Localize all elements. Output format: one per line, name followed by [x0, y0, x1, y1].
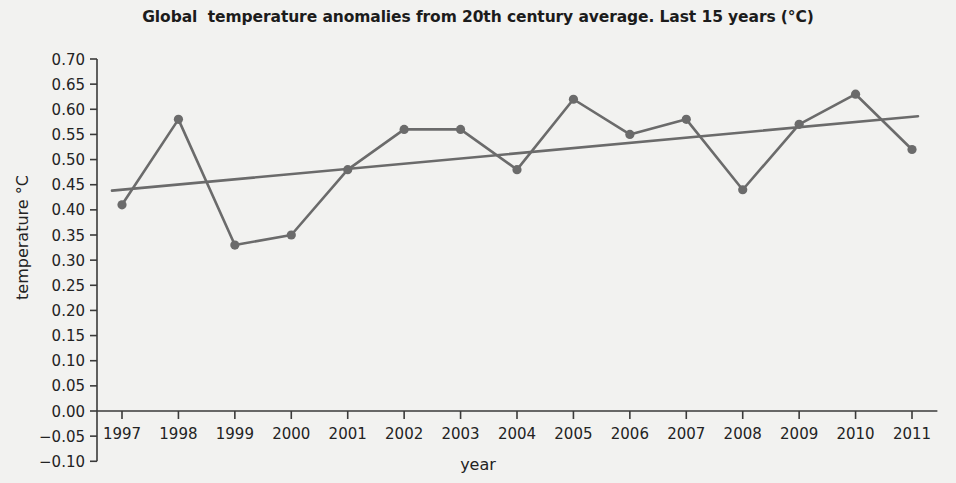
data-point-marker [174, 115, 183, 124]
data-point-marker [230, 240, 239, 249]
x-axis-tick-label: 2007 [667, 425, 705, 443]
data-point-marker [682, 115, 691, 124]
data-point-marker [456, 125, 465, 134]
data-point-marker [569, 95, 578, 104]
y-axis-label: temperature °C [13, 158, 32, 318]
data-point-marker [738, 185, 747, 194]
y-axis-tick-label: 0.40 [52, 201, 85, 219]
y-axis-tick-label: 0.30 [52, 252, 85, 270]
trendline [112, 116, 918, 190]
data-point-marker [287, 230, 296, 239]
y-axis-tick-label: 0.65 [52, 76, 85, 94]
data-point-marker [851, 90, 860, 99]
y-axis-tick-label: 0.70 [52, 51, 85, 69]
x-axis-tick-label: 2000 [272, 425, 310, 443]
x-axis-tick-label: 2011 [893, 425, 931, 443]
x-axis-tick-label: 1999 [216, 425, 254, 443]
y-axis-tick-label: 0.20 [52, 302, 85, 320]
y-axis-tick-label: 0.05 [52, 377, 85, 395]
x-axis-label: year [0, 455, 956, 474]
x-axis-tick-label: 1997 [103, 425, 141, 443]
y-axis-tick-label: 0.15 [52, 327, 85, 345]
y-axis-tick-label: 0.10 [52, 352, 85, 370]
x-axis-tick-label: 2006 [611, 425, 649, 443]
x-axis-tick-label: 2001 [329, 425, 367, 443]
line-chart-plot: 0.700.650.600.550.500.450.400.350.300.25… [0, 0, 956, 483]
y-axis-tick-label: 0.55 [52, 126, 85, 144]
x-axis-tick-label: 2009 [780, 425, 818, 443]
y-axis-tick-label: 0.35 [52, 227, 85, 245]
y-axis-tick-label: 0.25 [52, 277, 85, 295]
chart-page: Global temperature anomalies from 20th c… [0, 0, 956, 483]
y-axis-tick-label: 0.45 [52, 176, 85, 194]
data-point-marker [512, 165, 521, 174]
y-axis-tick-label: 0.50 [52, 151, 85, 169]
x-axis-tick-label: 1998 [159, 425, 197, 443]
x-axis-tick-label: 2005 [554, 425, 592, 443]
data-point-marker [400, 125, 409, 134]
x-axis-tick-label: 2010 [836, 425, 874, 443]
y-axis-tick-label: −0.05 [39, 428, 85, 446]
data-point-marker [907, 145, 916, 154]
x-axis-tick-label: 2004 [498, 425, 536, 443]
y-axis-tick-label: 0.00 [52, 403, 85, 421]
x-axis-tick-label: 2003 [441, 425, 479, 443]
x-axis-tick-label: 2008 [724, 425, 762, 443]
data-point-marker [625, 130, 634, 139]
y-axis-tick-label: 0.60 [52, 101, 85, 119]
data-point-marker [117, 200, 126, 209]
x-axis-tick-label: 2002 [385, 425, 423, 443]
